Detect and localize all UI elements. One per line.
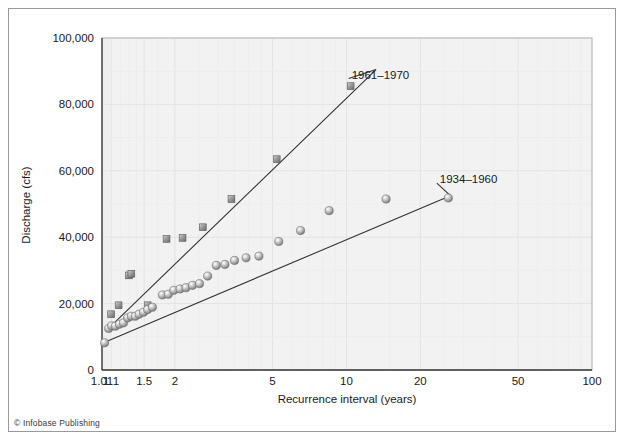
data-point-marker [242, 254, 250, 262]
x-axis-title: Recurrence interval (years) [278, 393, 417, 405]
data-point-marker [212, 261, 220, 269]
data-point-marker [179, 234, 186, 241]
data-point-marker [228, 196, 235, 203]
x-tick-label: 1.5 [136, 375, 152, 387]
data-point-marker [255, 252, 263, 260]
data-point-marker [199, 224, 206, 231]
data-point-marker [108, 311, 115, 318]
y-axis-tick-labels: 020,00040,00060,00080,000100,000 [52, 32, 94, 376]
figure-root: 1.011.11.525102050100 020,00040,00060,00… [0, 0, 626, 447]
y-tick-label: 40,000 [59, 231, 94, 243]
y-tick-label: 80,000 [59, 98, 94, 110]
data-point-marker [115, 302, 122, 309]
y-tick-label: 100,000 [52, 32, 94, 44]
data-point-marker [101, 339, 109, 347]
x-tick-label: 2 [172, 375, 178, 387]
x-tick-label: 5 [269, 375, 275, 387]
x-tick-label: 100 [582, 375, 601, 387]
x-tick-label: 10 [340, 375, 353, 387]
recurrence-interval-discharge-chart: 1.011.11.525102050100 020,00040,00060,00… [0, 0, 626, 447]
copyright-credit: © Infobase Publishing [14, 418, 100, 428]
data-point-marker [325, 207, 333, 215]
data-point-marker [273, 156, 280, 163]
x-tick-label: 50 [512, 375, 525, 387]
x-tick-label: 1.1 [103, 375, 119, 387]
data-point-marker [221, 260, 229, 268]
y-tick-label: 20,000 [59, 298, 94, 310]
y-axis-title: Discharge (cfs) [20, 166, 32, 243]
y-tick-label: 0 [88, 364, 94, 376]
data-point-marker [163, 235, 170, 242]
data-point-marker [230, 256, 238, 264]
series-label: 1934–1960 [440, 173, 498, 185]
series-label: 1961–1970 [352, 69, 410, 81]
data-point-marker [204, 272, 212, 280]
data-point-marker [148, 303, 156, 311]
y-tick-label: 60,000 [59, 165, 94, 177]
data-point-marker [347, 83, 354, 90]
data-point-marker [382, 195, 390, 203]
data-point-marker [128, 270, 135, 277]
x-tick-label: 20 [414, 375, 427, 387]
data-point-marker [444, 194, 452, 202]
x-axis-tick-labels: 1.011.11.525102050100 [91, 375, 602, 387]
data-point-marker [275, 237, 283, 245]
data-point-marker [296, 226, 304, 234]
data-point-marker [195, 280, 203, 288]
